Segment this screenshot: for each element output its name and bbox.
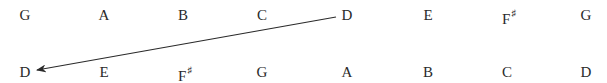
top-note-g: G — [20, 8, 31, 23]
bottom-note-g: G — [257, 65, 268, 80]
top-note-d: D — [342, 8, 353, 23]
top-note-b: B — [178, 8, 188, 23]
sharp-icon: ♯ — [511, 8, 516, 18]
top-note-a: A — [99, 8, 110, 23]
bottom-note-e: E — [99, 65, 108, 80]
bottom-note-d-high: D — [581, 65, 592, 80]
bottom-note-c: C — [502, 65, 512, 80]
bottom-note-b: B — [423, 65, 433, 80]
bottom-note-f-sharp: F♯ — [178, 65, 192, 83]
sharp-icon: ♯ — [187, 65, 192, 75]
bottom-note-a: A — [342, 65, 353, 80]
bottom-note-d: D — [20, 65, 31, 80]
top-note-e: E — [423, 8, 432, 23]
top-note-c: C — [257, 8, 267, 23]
top-note-g-high: G — [581, 8, 592, 23]
top-note-f-sharp: F♯ — [502, 8, 516, 27]
